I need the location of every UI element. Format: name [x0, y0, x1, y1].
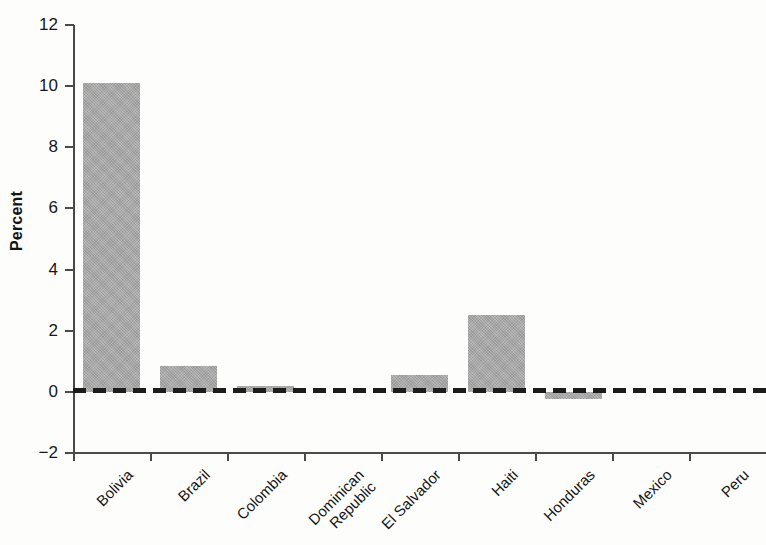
x-label-line: Haiti [487, 466, 520, 499]
plot-area: 121086420−2 BoliviaBrazilColombiaDominic… [0, 0, 766, 545]
x-label-line: Brazil [174, 466, 213, 505]
x-tick-label-bolivia: Bolivia [32, 466, 136, 545]
x-axis-labels: BoliviaBrazilColombiaDominicanRepublicEl… [0, 0, 766, 545]
x-label-line: Mexico [629, 466, 675, 512]
x-label-line: Colombia [233, 466, 290, 523]
x-label-line: Honduras [540, 466, 598, 524]
bar-chart: Percent 121086420−2 BoliviaBrazilColombi… [0, 0, 766, 545]
x-label-line: El Salvador [377, 466, 443, 532]
x-label-line: Bolivia [92, 466, 135, 509]
x-label-line: Peru [717, 466, 751, 500]
